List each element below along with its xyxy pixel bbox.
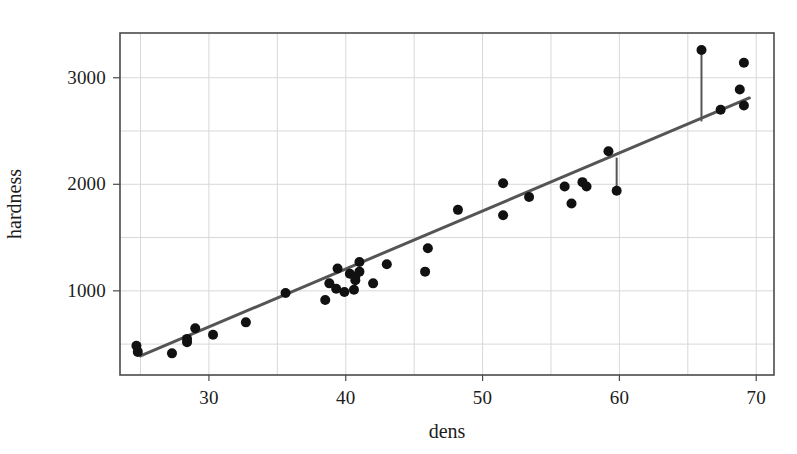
x-tick-label: 60 — [610, 387, 629, 409]
data-point — [498, 178, 508, 188]
data-point — [333, 263, 343, 273]
data-point — [735, 84, 745, 94]
plot-canvas — [0, 0, 797, 454]
data-point — [498, 210, 508, 220]
data-point — [567, 198, 577, 208]
data-point — [339, 287, 349, 297]
data-point — [696, 45, 706, 55]
data-point — [524, 192, 534, 202]
data-point — [133, 347, 143, 357]
data-point — [382, 259, 392, 269]
data-point — [560, 181, 570, 191]
x-tick-label: 30 — [199, 387, 218, 409]
y-tick-label: 2000 — [67, 173, 106, 195]
data-point — [320, 295, 330, 305]
data-point — [420, 267, 430, 277]
x-tick-label: 40 — [336, 387, 355, 409]
x-tick-label: 70 — [747, 387, 766, 409]
data-point — [739, 100, 749, 110]
data-point — [167, 348, 177, 358]
data-point — [208, 330, 218, 340]
data-point — [368, 278, 378, 288]
data-point — [716, 105, 726, 115]
data-point — [603, 146, 613, 156]
data-point — [423, 243, 433, 253]
data-point — [182, 334, 192, 344]
data-point — [190, 323, 200, 333]
y-tick-label: 3000 — [67, 67, 106, 89]
data-point — [453, 205, 463, 215]
data-points — [131, 45, 748, 358]
data-point — [349, 285, 359, 295]
y-tick-label: 1000 — [67, 280, 106, 302]
data-point — [241, 317, 251, 327]
data-point — [281, 288, 291, 298]
data-point — [612, 186, 622, 196]
y-axis-title: hardness — [3, 169, 26, 239]
x-axis-title: dens — [429, 420, 466, 443]
data-point — [739, 58, 749, 68]
scatter-plot-figure: 3040506070 100020003000 dens hardness — [0, 0, 797, 454]
data-point — [354, 257, 364, 267]
data-point — [354, 267, 364, 277]
residual-segments — [617, 50, 702, 191]
data-point — [582, 181, 592, 191]
regression-line — [141, 98, 750, 356]
x-tick-label: 50 — [473, 387, 492, 409]
